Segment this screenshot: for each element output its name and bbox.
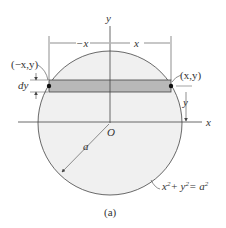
left-point-leader xyxy=(38,65,48,80)
y-axis-label: y xyxy=(105,12,111,24)
right-width-label: x xyxy=(133,37,139,49)
circle-diagram: y x O −x x (−x,y) (x,y) dy y a x2+ y2= a… xyxy=(0,0,226,228)
radius-label: a xyxy=(83,140,89,152)
right-point-label: (x,y) xyxy=(180,69,201,82)
y-dim-label: y xyxy=(182,96,188,108)
left-point-label: (−x,y) xyxy=(11,58,39,71)
right-point xyxy=(169,84,173,88)
origin-label: O xyxy=(107,126,115,138)
figure-caption: (a) xyxy=(104,206,117,219)
left-width-label: −x xyxy=(76,37,88,49)
x-axis-label: x xyxy=(205,116,211,128)
left-point xyxy=(47,84,51,88)
equation-label: x2+ y2= a2 xyxy=(161,180,209,192)
dy-label: dy xyxy=(18,79,29,91)
